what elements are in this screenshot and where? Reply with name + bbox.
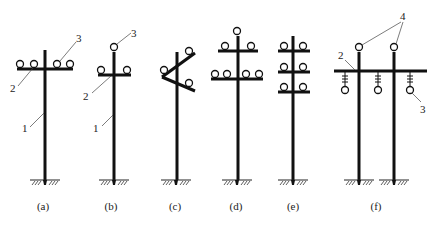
- caption-e: (e): [287, 200, 300, 213]
- pole-b: 3 2 1 (b): [83, 27, 137, 213]
- pole-c: (c): [161, 48, 196, 214]
- caption-d: (d): [230, 200, 243, 213]
- callout-3: 3: [76, 32, 82, 44]
- callout-2: 2: [83, 90, 89, 102]
- callout-4: 4: [400, 10, 406, 22]
- pole-f: 4 2 3 (f): [334, 10, 427, 213]
- caption-c: (c): [169, 200, 182, 213]
- callout-1: 1: [22, 122, 28, 134]
- pole-a: 3 2 1 (a): [10, 32, 82, 213]
- callout-3: 3: [131, 27, 137, 39]
- pole-e: (e): [278, 36, 310, 213]
- callout-2: 2: [338, 49, 344, 61]
- caption-f: (f): [371, 200, 382, 213]
- pole-d: (d): [211, 28, 263, 214]
- caption-b: (b): [105, 200, 118, 213]
- callout-1: 1: [93, 122, 99, 134]
- callout-2: 2: [10, 82, 16, 94]
- callout-3: 3: [420, 103, 426, 115]
- pole-configurations-figure: 3 2 1 (a) 3 2 1 (b) (c): [0, 0, 437, 227]
- caption-a: (a): [37, 200, 50, 213]
